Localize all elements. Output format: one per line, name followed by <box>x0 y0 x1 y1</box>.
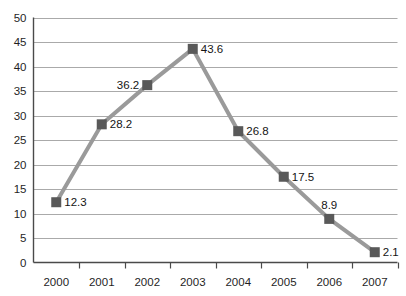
data-point-marker <box>142 80 152 90</box>
x-axis-tick-label: 2002 <box>134 276 160 288</box>
x-axis-tick-label: 2003 <box>180 276 206 288</box>
y-axis-tick-label: 35 <box>14 85 27 97</box>
x-axis-tick-label: 2006 <box>316 276 342 288</box>
y-axis-tick-label: 15 <box>14 183 27 195</box>
x-axis-tick-label: 2005 <box>271 276 297 288</box>
data-point-marker <box>188 44 198 54</box>
x-axis-tick-label: 2001 <box>89 276 115 288</box>
data-point-marker <box>370 247 380 257</box>
data-point-label: 43.6 <box>201 43 223 55</box>
data-point-marker <box>51 197 61 207</box>
data-point-marker <box>279 172 289 182</box>
chart-canvas: 05101520253035404550 2000200120022003200… <box>0 0 406 296</box>
y-axis-tick-label: 50 <box>14 12 27 24</box>
x-axis-tick-label: 2000 <box>43 276 69 288</box>
y-axis-tick-label: 0 <box>20 257 26 269</box>
y-axis-tick-label: 20 <box>14 159 27 171</box>
data-point-label: 28.2 <box>110 118 132 130</box>
data-point-label: 17.5 <box>292 171 314 183</box>
y-axis-tick-label: 10 <box>14 208 27 220</box>
y-axis-tick-label: 25 <box>14 134 27 146</box>
data-point-label: 12.3 <box>64 196 86 208</box>
x-axis-tick-label: 2007 <box>362 276 388 288</box>
y-axis-tick-label: 40 <box>14 61 27 73</box>
x-axis-tick-label: 2004 <box>225 276 251 288</box>
data-point-marker <box>324 214 334 224</box>
line-chart: 05101520253035404550 2000200120022003200… <box>0 0 406 296</box>
y-axis-tick-label: 5 <box>20 232 26 244</box>
y-axis-tick-label: 30 <box>14 110 27 122</box>
data-point-label: 8.9 <box>321 199 337 211</box>
data-point-label: 26.8 <box>246 125 268 137</box>
data-point-marker <box>233 126 243 136</box>
y-axis-tick-label: 45 <box>14 36 27 48</box>
data-point-label: 36.2 <box>117 79 139 91</box>
data-point-marker <box>97 119 107 129</box>
data-point-label: 2.1 <box>383 246 399 258</box>
